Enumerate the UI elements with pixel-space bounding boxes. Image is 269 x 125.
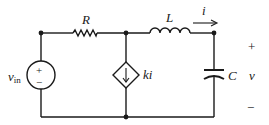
source-plus: + <box>36 64 42 76</box>
resistor-label: R <box>81 12 90 27</box>
output-plus: + <box>248 39 255 54</box>
nodes <box>39 31 217 120</box>
capacitor: C <box>204 68 237 83</box>
output-minus: − <box>247 100 254 115</box>
current-label: i <box>202 3 206 18</box>
output-voltage: + v − <box>247 39 255 115</box>
dependent-source-label: ki <box>143 67 153 82</box>
inductor-label: L <box>165 10 173 25</box>
source-minus: − <box>36 76 42 88</box>
node-top-right <box>212 31 217 36</box>
inductor: L <box>150 10 190 33</box>
resistor: R <box>73 12 97 36</box>
wires <box>41 33 214 117</box>
node-top-middle <box>124 31 129 36</box>
dependent-current-source: ki <box>113 62 153 88</box>
node-bottom-middle <box>124 115 129 120</box>
node-top-left <box>39 31 44 36</box>
output-label: v <box>249 68 255 83</box>
source-label: vin <box>8 69 21 85</box>
voltage-source: + − vin <box>8 61 55 89</box>
current-arrow-icon: i <box>193 3 217 26</box>
capacitor-label: C <box>228 68 237 83</box>
circuit-diagram: R L i + − vin ki C + v − <box>0 0 269 125</box>
